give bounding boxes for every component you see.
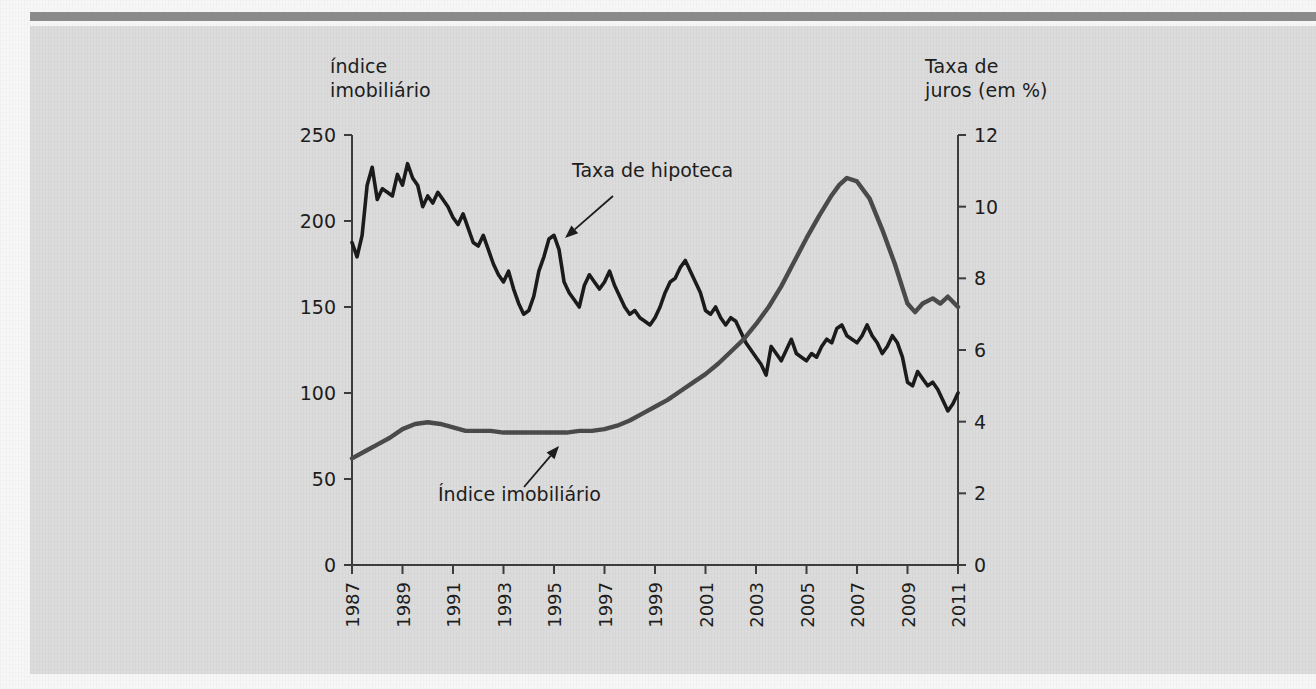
right-tick-label: 6 bbox=[974, 339, 986, 361]
right-tick-label: 12 bbox=[974, 124, 998, 146]
right-tick-label: 10 bbox=[974, 196, 998, 218]
x-tick-label: 1997 bbox=[595, 582, 616, 628]
x-tick-label: 1995 bbox=[544, 582, 565, 628]
right-tick-label: 2 bbox=[974, 482, 986, 504]
left-axis: 050100150200250 bbox=[300, 124, 352, 576]
x-tick-label: 1999 bbox=[645, 582, 666, 628]
x-tick-label: 1987 bbox=[342, 582, 363, 628]
right-tick-label: 8 bbox=[974, 267, 986, 289]
x-tick-label: 2011 bbox=[948, 582, 969, 628]
left-tick-label: 100 bbox=[300, 382, 336, 404]
annotation-arrow-line-mortgage-rate bbox=[575, 196, 613, 229]
annotation-layer: Taxa de hipotecaÍndice imobiliário bbox=[438, 159, 733, 505]
x-tick-label: 1991 bbox=[443, 582, 464, 628]
chart-plot: 050100150200250 024681012 19871989199119… bbox=[0, 0, 1316, 689]
x-tick-label: 2001 bbox=[696, 582, 717, 628]
x-tick-label: 1989 bbox=[393, 582, 414, 628]
series-layer bbox=[352, 164, 958, 459]
left-tick-label: 150 bbox=[300, 296, 336, 318]
x-tick-label: 2003 bbox=[746, 582, 767, 628]
right-axis: 024681012 bbox=[958, 124, 998, 576]
left-tick-label: 50 bbox=[312, 468, 336, 490]
x-tick-label: 2009 bbox=[898, 582, 919, 628]
x-tick-label: 1993 bbox=[494, 582, 515, 628]
x-tick-label: 2007 bbox=[847, 582, 868, 628]
annotation-label-housing-index: Índice imobiliário bbox=[438, 483, 601, 505]
left-tick-label: 0 bbox=[324, 554, 336, 576]
right-tick-label: 4 bbox=[974, 411, 986, 433]
annotation-label-mortgage-rate: Taxa de hipoteca bbox=[571, 159, 733, 181]
series-line-mortgage-rate bbox=[352, 164, 958, 411]
left-tick-label: 250 bbox=[300, 124, 336, 146]
left-tick-label: 200 bbox=[300, 210, 336, 232]
page-background: índice imobiliário Taxa de juros (em %) … bbox=[0, 0, 1316, 689]
right-tick-label: 0 bbox=[974, 554, 986, 576]
x-tick-label: 2005 bbox=[797, 582, 818, 628]
x-axis: 1987198919911993199519971999200120032005… bbox=[342, 565, 969, 628]
